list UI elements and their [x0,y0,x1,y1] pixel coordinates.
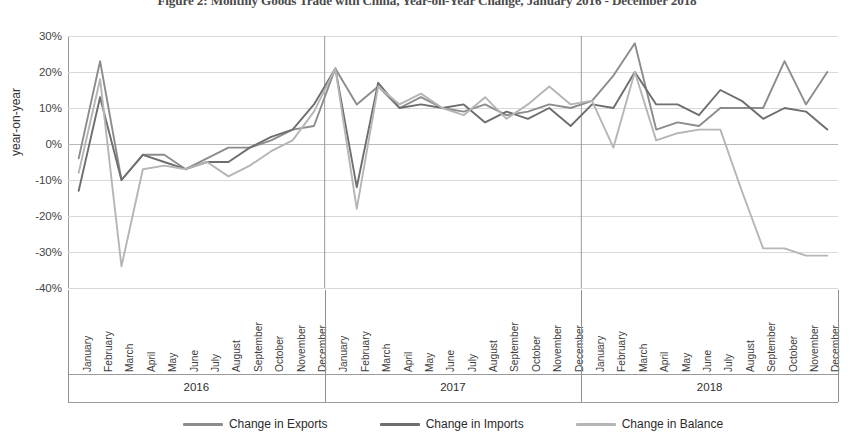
x-axis-month-label: November [553,290,563,372]
x-axis-month-label: June [703,290,713,372]
x-axis-month-label: May [682,290,692,372]
x-axis-month-label: December [831,290,841,372]
chart-legend: Change in ExportsChange in ImportsChange… [68,412,838,436]
x-axis-month-label: October [789,290,799,372]
x-axis-month-label: April [147,290,157,372]
y-axis-tick-label: -20% [18,210,62,222]
x-axis-month-label: March [382,290,392,372]
x-axis-month-label: June [190,290,200,372]
y-axis-tick-label: 10% [18,102,62,114]
legend-item[interactable]: Change in Balance [576,417,723,431]
x-axis-month-label: September [254,290,264,372]
legend-line-swatch [380,423,420,426]
legend-label: Change in Balance [622,417,723,431]
x-axis-month-label: November [297,290,307,372]
x-axis-month-label: July [468,290,478,372]
x-axis-month-label: April [660,290,670,372]
x-axis-month-label: December [575,290,585,372]
x-axis-month-label: August [489,290,499,372]
x-axis-month-labels: JanuaryFebruaryMarchAprilMayJuneJulyAugu… [68,290,838,374]
y-axis-tick-label: 20% [18,66,62,78]
y-axis-tick-label: -10% [18,174,62,186]
x-axis-month-label: January [596,290,606,372]
x-axis-month-label: September [767,290,777,372]
x-axis-month-label: August [746,290,756,372]
y-axis-tick-label: -30% [18,246,62,258]
x-axis-month-label: October [532,290,542,372]
x-axis-month-label: July [724,290,734,372]
x-axis-month-label: February [617,290,627,372]
y-axis-tick-label: 0% [18,138,62,150]
legend-label: Change in Exports [229,417,328,431]
x-axis-month-label: February [361,290,371,372]
x-axis-year-label: 2016 [68,381,325,393]
legend-line-swatch [183,423,223,426]
x-axis-month-label: October [275,290,285,372]
x-axis-month-label: May [425,290,435,372]
x-axis-month-label: January [83,290,93,372]
x-axis-month-label: August [232,290,242,372]
y-axis-tick-label: 30% [18,30,62,42]
plot-area [68,36,838,288]
gridline [68,288,838,289]
x-axis-year-separator [325,290,326,402]
x-axis-month-label: February [104,290,114,372]
y-axis-tick-label: -40% [18,282,62,294]
x-axis-month-label: June [446,290,456,372]
x-axis-band-right-edge [838,290,839,402]
figure-title: Figure 2: Monthly Goods Trade with China… [0,0,854,9]
x-axis-month-label: December [318,290,328,372]
legend-item[interactable]: Change in Imports [380,417,524,431]
legend-label: Change in Imports [426,417,524,431]
y-axis-title: year-on-year [9,62,23,182]
year-band-bottom-rule [68,402,838,403]
x-axis-month-label: March [125,290,135,372]
series-lines [68,36,838,288]
x-axis-month-label: July [211,290,221,372]
figure-container: Figure 2: Monthly Goods Trade with China… [0,0,854,442]
x-axis-month-label: January [339,290,349,372]
x-axis-month-label: September [510,290,520,372]
x-axis-year-label: 2018 [581,381,838,393]
x-axis-year-separator [581,290,582,402]
x-axis-month-label: November [810,290,820,372]
x-axis-month-label: April [404,290,414,372]
legend-item[interactable]: Change in Exports [183,417,328,431]
series-line [79,68,828,266]
x-axis-month-label: May [168,290,178,372]
x-axis-year-label: 2017 [325,381,582,393]
x-axis-year-labels: 201620172018 [68,374,838,402]
legend-line-swatch [576,423,616,426]
x-axis-month-label: March [639,290,649,372]
